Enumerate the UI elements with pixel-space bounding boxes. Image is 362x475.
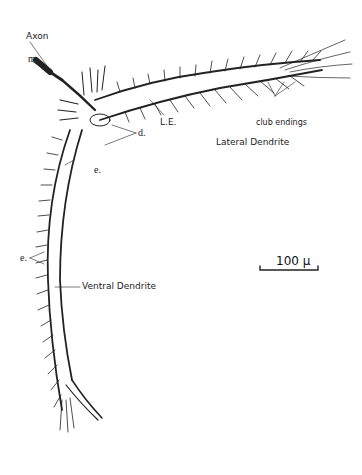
lateral-dendrite: [95, 40, 352, 122]
label-d: d.: [138, 127, 146, 138]
leader-lines: [30, 42, 295, 287]
label-ventral-dendrite: Ventral Dendrite: [82, 281, 156, 291]
label-e-lower: e.: [20, 252, 27, 263]
label-club-endings: club endings: [256, 118, 307, 127]
neuron-diagram: [0, 0, 362, 475]
label-lateral-dendrite: Lateral Dendrite: [216, 137, 289, 147]
label-le: L.E.: [160, 117, 176, 127]
soma: [58, 66, 110, 126]
label-e-upper: e.: [94, 164, 101, 175]
axon: [36, 60, 62, 80]
scale-bar-label: 100 μ: [276, 254, 310, 268]
label-m: m.: [28, 53, 38, 64]
label-axon: Axon: [26, 31, 48, 41]
